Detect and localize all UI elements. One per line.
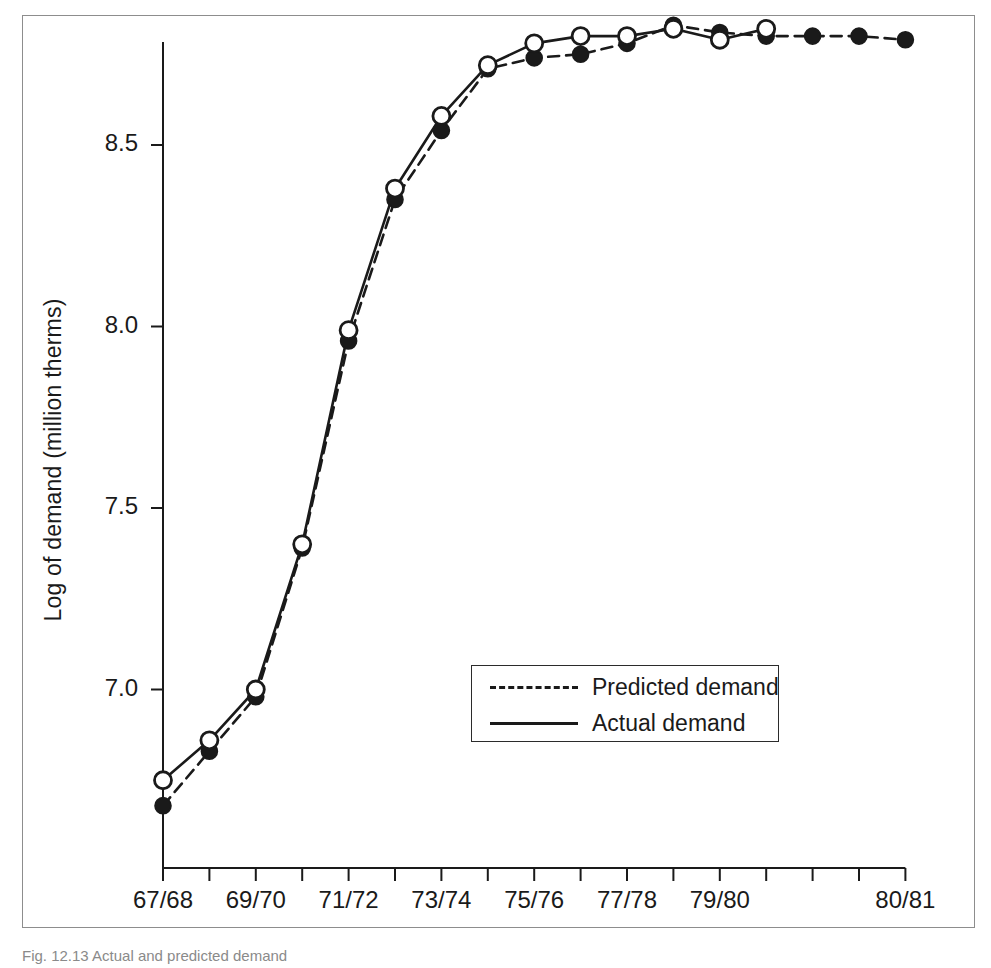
x-axis-tick-label: 79/80 [660,886,780,914]
chart-legend: Predicted demand Actual demand [471,665,779,742]
figure-caption: Fig. 12.13 Actual and predicted demand [22,947,287,965]
legend-swatch-solid-line [490,717,578,729]
x-axis-tick-label: 80/81 [845,886,965,914]
legend-label-actual: Actual demand [592,710,745,737]
y-axis-tick-label: 8.5 [38,129,138,157]
legend-entry-actual: Actual demand [472,704,778,742]
y-axis-tick-label: 7.0 [38,674,138,702]
figure-border [22,15,975,928]
y-axis-tick-label: 8.0 [38,311,138,339]
y-axis-tick-label: 7.5 [38,492,138,520]
legend-label-predicted: Predicted demand [592,674,779,701]
y-axis-title-text: Log of demand (million therms) [40,298,67,621]
legend-entry-predicted: Predicted demand [472,668,778,706]
legend-swatch-dashed-line [490,681,578,693]
figure-container: Log of demand (million therms) 7.07.58.0… [0,0,991,968]
